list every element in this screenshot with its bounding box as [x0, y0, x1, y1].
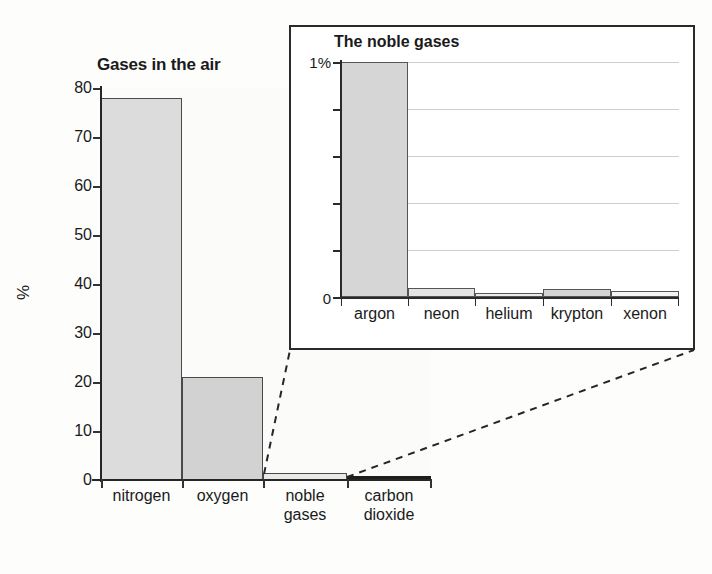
noble-gases-inset-chart: The noble gases 1% 0 argon neon helium k…	[289, 25, 695, 350]
y-tick-label: 80	[52, 80, 92, 96]
y-tick-label: 20	[52, 374, 92, 390]
inset-y-axis-line	[340, 60, 342, 299]
inset-x-label-xenon: xenon	[611, 305, 679, 323]
x-label-oxygen: oxygen	[182, 486, 263, 505]
inset-y-tick-label: 0	[323, 291, 331, 306]
inset-y-tick-label: 1%	[309, 55, 331, 70]
y-tick-label: 40	[52, 276, 92, 292]
y-tick-label: 50	[52, 227, 92, 243]
bar-nitrogen	[101, 98, 182, 480]
inset-x-label-krypton: krypton	[543, 305, 611, 323]
inset-plot-area	[341, 62, 679, 297]
inset-bar-neon	[408, 288, 475, 297]
y-axis-caption: %	[14, 285, 34, 300]
x-label-nitrogen: nitrogen	[101, 486, 182, 505]
y-tick-label: 70	[52, 129, 92, 145]
x-axis-line	[92, 479, 432, 481]
inset-x-label-argon: argon	[341, 305, 408, 323]
inset-bar-argon	[341, 62, 408, 297]
inset-x-label-neon: neon	[408, 305, 475, 323]
y-tick-label: 30	[52, 325, 92, 341]
bar-oxygen	[182, 377, 263, 480]
y-axis-line	[100, 86, 102, 482]
x-label-noble-gases: noble gases	[263, 486, 347, 524]
y-tick-label: 0	[52, 472, 92, 488]
inset-x-axis-line	[333, 297, 679, 299]
inset-x-label-helium: helium	[475, 305, 543, 323]
y-tick-label: 60	[52, 178, 92, 194]
main-chart-title: Gases in the air	[97, 55, 220, 75]
inset-chart-title: The noble gases	[334, 33, 459, 51]
x-label-carbon-dioxide: carbon dioxide	[347, 486, 431, 524]
inset-bar-krypton	[543, 289, 611, 297]
y-tick-label: 10	[52, 423, 92, 439]
